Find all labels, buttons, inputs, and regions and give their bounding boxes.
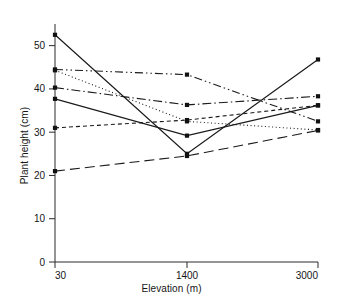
data-point-marker — [185, 118, 189, 122]
x-tick-labels: 3014003000 — [55, 270, 318, 281]
data-point-marker — [53, 126, 57, 130]
y-tick-label: 10 — [34, 213, 46, 224]
x-tick-label: 3000 — [296, 270, 319, 281]
data-point-marker — [316, 128, 320, 132]
y-tick-marks — [49, 46, 55, 262]
series-line — [55, 69, 318, 121]
y-tick-label: 50 — [34, 40, 46, 51]
data-point-marker — [53, 97, 57, 101]
data-point-marker — [53, 68, 57, 72]
y-tick-label: 20 — [34, 170, 46, 181]
plot-canvas: 01020304050 3014003000 — [0, 0, 343, 306]
data-point-marker — [185, 103, 189, 107]
x-tick-marks — [55, 262, 318, 268]
data-point-marker — [185, 134, 189, 138]
x-axis-title: Elevation (m) — [0, 283, 343, 294]
data-point-marker — [185, 154, 189, 158]
series-line — [55, 105, 318, 128]
y-tick-label: 0 — [39, 257, 45, 268]
data-point-marker — [316, 57, 320, 61]
data-point-marker — [316, 119, 320, 123]
x-tick-label: 1400 — [176, 270, 199, 281]
data-point-marker — [53, 33, 57, 37]
data-series — [53, 67, 320, 123]
series-line — [55, 88, 318, 105]
data-series-group — [53, 33, 320, 174]
x-tick-label: 30 — [55, 270, 67, 281]
data-point-marker — [53, 86, 57, 90]
data-point-marker — [185, 73, 189, 77]
data-series — [53, 68, 320, 132]
data-point-marker — [316, 94, 320, 98]
data-series — [53, 86, 320, 108]
chart-figure: 01020304050 3014003000 Elevation (m) Pla… — [0, 0, 343, 306]
axes — [55, 24, 318, 262]
data-series — [53, 103, 320, 130]
y-tick-labels: 01020304050 — [34, 40, 46, 267]
y-tick-label: 30 — [34, 127, 46, 138]
data-point-marker — [316, 103, 320, 107]
data-point-marker — [53, 169, 57, 173]
y-tick-label: 40 — [34, 83, 46, 94]
y-axis-title: Plant height (cm) — [19, 76, 30, 216]
